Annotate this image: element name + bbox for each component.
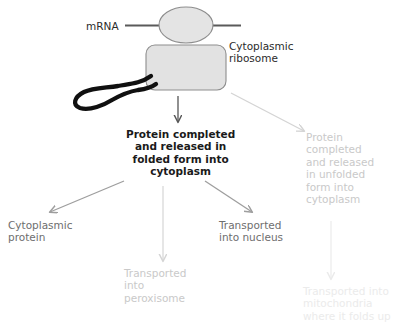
translation-fate-diagram: mRNA Cytoplasmic ribosome Protein comple… bbox=[0, 0, 393, 328]
cytoplasmic-ribosome-label: Cytoplasmic ribosome bbox=[229, 40, 294, 65]
cytoplasmic-protein-label: Cytoplasmic protein bbox=[8, 219, 73, 244]
ribosome-small-subunit bbox=[159, 7, 213, 43]
transported-mitochondria-label: Transported into mitochondria where it f… bbox=[303, 285, 391, 322]
mrna-label: mRNA bbox=[86, 20, 119, 32]
protein-unfolded-label: Protein completed and released in unfold… bbox=[306, 131, 374, 205]
arrow-folded-to-nucleus bbox=[205, 181, 252, 212]
arrow-folded-to-cytoplasmic-protein bbox=[50, 181, 124, 212]
transported-peroxisome-label: Transported into peroxisome bbox=[124, 267, 186, 304]
transported-nucleus-label: Transported into nucleus bbox=[219, 219, 283, 244]
nascent-protein-chain bbox=[75, 76, 156, 109]
arrow-ribosome-to-unfolded bbox=[231, 93, 304, 131]
protein-folded-label: Protein completed and released in folded… bbox=[126, 128, 235, 178]
